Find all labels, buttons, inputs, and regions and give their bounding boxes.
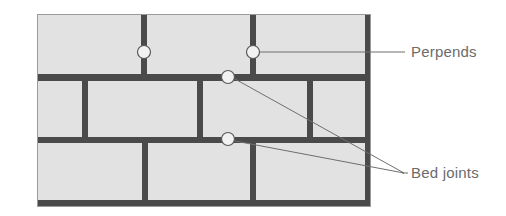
label-perpends: Perpends bbox=[411, 43, 477, 60]
brick bbox=[256, 143, 365, 200]
label-bed-joints: Bed joints bbox=[411, 164, 479, 181]
brick bbox=[256, 15, 365, 74]
brick bbox=[38, 143, 142, 200]
brick bbox=[147, 15, 250, 74]
brick bbox=[38, 81, 82, 137]
brick bbox=[148, 143, 250, 200]
brick bbox=[38, 15, 141, 74]
marker-bed-joint-1 bbox=[222, 71, 235, 84]
brickwork-diagram: Perpends Bed joints bbox=[0, 0, 506, 216]
brick bbox=[313, 81, 365, 137]
diagram-canvas bbox=[0, 0, 506, 216]
marker-perpend-2 bbox=[247, 46, 260, 59]
brick bbox=[88, 81, 197, 137]
brick-row-1 bbox=[38, 15, 365, 74]
marker-bed-joint-2 bbox=[222, 133, 235, 146]
brick-row-3 bbox=[38, 143, 365, 200]
wall-group bbox=[37, 14, 371, 207]
brick bbox=[203, 81, 307, 137]
marker-perpend-1 bbox=[138, 46, 151, 59]
